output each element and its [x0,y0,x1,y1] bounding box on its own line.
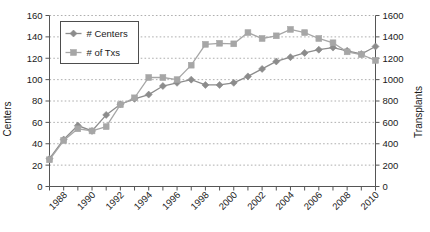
data-point [245,30,251,36]
data-point [244,73,251,80]
y-tick-label: 60 [32,117,43,128]
y2-tick-label: 1400 [383,31,404,42]
data-point [288,26,294,32]
y2-tick-label: 800 [383,95,399,106]
data-point [61,138,67,144]
legend-label: # Centers [87,28,128,39]
data-point [174,77,180,83]
y-tick-label: 40 [32,138,43,149]
data-point [159,83,166,90]
y2-tick-label: 1200 [383,53,404,64]
y-tick-label: 0 [37,181,42,192]
data-point [259,36,265,42]
data-point [188,76,195,83]
y-tick-label: 140 [27,31,43,42]
data-point [146,75,152,81]
data-point [202,81,209,88]
y2-tick-label: 1000 [383,74,404,85]
data-point [259,65,266,72]
data-point [372,43,379,50]
data-point [217,40,223,46]
x-tick-label: 2002 [245,189,268,212]
x-tick-label: 2010 [358,189,381,212]
line-chart: 020406080100120140160 020040060080010001… [0,0,430,232]
x-tick-label: 2006 [301,189,324,212]
legend-label: # of Txs [87,47,121,58]
data-point [188,62,194,68]
y-tick-label: 80 [32,95,43,106]
data-point [230,79,237,86]
y2-tick-label: 600 [383,117,399,128]
x-tick-label: 1992 [103,189,126,212]
data-point [358,52,364,58]
data-point [344,49,350,55]
x-tick-label: 1996 [160,189,183,212]
data-point [145,91,152,98]
data-point [287,54,294,61]
data-point [231,41,237,47]
data-point [273,33,279,39]
data-point [132,95,138,101]
data-point [89,128,95,134]
x-tick-label: 1994 [131,189,154,212]
y2-axis-ticks: 02004006008001000120014001600 [376,10,404,192]
x-tick-label: 1998 [188,189,211,212]
data-point [160,75,166,81]
y-tick-label: 120 [27,53,43,64]
x-tick-label: 1988 [46,189,69,212]
chart-container: 020406080100120140160 020040060080010001… [0,0,430,232]
data-point [216,81,223,88]
x-tick-label: 1990 [75,189,98,212]
data-point [103,124,109,130]
chart-legend: # Centers# of Txs [61,22,139,64]
data-point [373,57,379,63]
x-axis-ticks: 1988199019921994199619982000200220042006… [46,187,381,212]
legend-marker [71,50,77,56]
y-axis-title: Centers [2,101,13,136]
x-tick-label: 2008 [330,189,353,212]
x-tick-label: 2000 [216,189,239,212]
data-point [330,40,336,46]
data-point [75,126,81,132]
data-point [302,30,308,36]
y2-tick-label: 400 [383,138,399,149]
y-axis-ticks: 020406080100120140160 [27,10,50,192]
data-point [273,58,280,65]
y-tick-label: 160 [27,10,43,21]
data-point [47,157,53,163]
y2-tick-label: 0 [383,181,388,192]
y2-axis-title: Transplants [413,86,424,138]
y-tick-label: 20 [32,160,43,171]
y-tick-label: 100 [27,74,43,85]
y2-tick-label: 200 [383,160,399,171]
data-point [117,102,123,108]
data-point [301,49,308,56]
data-point [315,46,322,53]
data-point [316,36,322,42]
data-point [203,41,209,47]
x-tick-label: 2004 [273,189,296,212]
y2-tick-label: 1600 [383,10,404,21]
